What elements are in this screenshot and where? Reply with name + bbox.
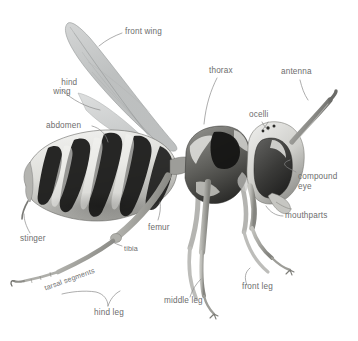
label-stinger: stinger: [20, 234, 46, 244]
label-thorax: thorax: [209, 66, 233, 76]
label-mouthparts: mouthparts: [285, 211, 327, 221]
label-tibia: tibia: [124, 244, 138, 254]
label-tarsal-segments: tarsal segments: [43, 266, 96, 293]
wasp-anatomy-diagram: front wing hind wing thorax antenna ocel…: [0, 0, 358, 341]
label-ocelli: ocelli: [249, 110, 269, 120]
label-front-wing: front wing: [125, 27, 162, 37]
label-antenna: antenna: [281, 67, 312, 77]
label-femur: femur: [148, 223, 170, 233]
label-middle-leg: middle leg: [164, 296, 203, 306]
label-hind-wing-text: hind wing: [53, 78, 77, 97]
label-hind-wing: hind wing: [46, 68, 78, 106]
label-layer: front wing hind wing thorax antenna ocel…: [0, 0, 358, 341]
label-hind-leg: hind leg: [94, 308, 124, 318]
label-abdomen: abdomen: [46, 121, 81, 131]
label-front-leg: front leg: [242, 282, 273, 292]
label-compound-eye: compound eye: [298, 172, 337, 191]
